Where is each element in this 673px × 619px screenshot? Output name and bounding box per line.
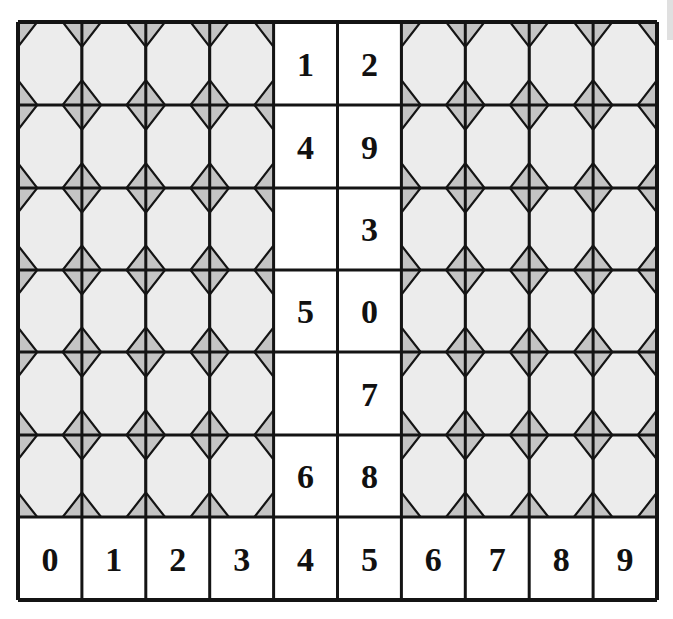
tile-octagon (529, 105, 593, 188)
tile-octagon (146, 22, 210, 105)
octagon-tile (593, 270, 657, 352)
number-cell[interactable] (274, 188, 338, 270)
octagon-tile (210, 270, 274, 352)
octagon-tile (529, 352, 593, 435)
answer-cell[interactable]: 5 (338, 517, 402, 600)
tile-octagon (593, 22, 657, 105)
octagon-tile (146, 22, 210, 105)
tile-octagon (82, 270, 146, 352)
octagon-tile (593, 435, 657, 517)
answer-cell[interactable]: 1 (82, 517, 146, 600)
tile-octagon (529, 270, 593, 352)
answer-cell[interactable]: 4 (274, 517, 338, 600)
tile-octagon (465, 352, 529, 435)
octagon-tile (401, 270, 465, 352)
octagon-tile (18, 105, 82, 188)
answer-cell[interactable]: 7 (465, 517, 529, 600)
cell-digit: 8 (361, 458, 378, 495)
tile-octagon (401, 188, 465, 270)
octagon-tile (146, 435, 210, 517)
octagon-tile (18, 270, 82, 352)
answer-cell[interactable]: 0 (18, 517, 82, 600)
octagon-tile (465, 270, 529, 352)
tile-octagon (82, 435, 146, 517)
answer-cell[interactable]: 2 (146, 517, 210, 600)
tile-octagon (82, 352, 146, 435)
octagon-tile (401, 22, 465, 105)
number-cell[interactable]: 2 (338, 22, 402, 105)
octagon-tile (210, 435, 274, 517)
answer-cell[interactable]: 9 (593, 517, 657, 600)
number-cell[interactable]: 6 (274, 435, 338, 517)
octagon-tile (465, 352, 529, 435)
tile-octagon (593, 270, 657, 352)
tile-octagon (210, 22, 274, 105)
cell-digit: 4 (297, 129, 314, 166)
tile-octagon (18, 352, 82, 435)
octagon-tile (593, 352, 657, 435)
octagon-tile (529, 188, 593, 270)
tile-octagon (465, 435, 529, 517)
tile-octagon (18, 22, 82, 105)
tile-octagon (401, 352, 465, 435)
number-cell[interactable]: 1 (274, 22, 338, 105)
octagon-tile (401, 352, 465, 435)
octagon-tile (593, 105, 657, 188)
puzzle-board: 1249350768 0123456789 (0, 0, 673, 619)
tile-octagon (146, 105, 210, 188)
tile-octagon (465, 270, 529, 352)
cell-digit: 6 (297, 458, 314, 495)
octagon-tile (82, 105, 146, 188)
answer-digit: 0 (41, 541, 58, 578)
tile-octagon (593, 105, 657, 188)
number-cell[interactable]: 7 (338, 352, 402, 435)
answer-cell[interactable]: 3 (210, 517, 274, 600)
octagon-tile (593, 22, 657, 105)
tile-octagon (18, 105, 82, 188)
cell-digit: 1 (297, 46, 314, 83)
tile-octagon (82, 188, 146, 270)
answer-digit: 1 (105, 541, 122, 578)
cell-background (274, 188, 338, 270)
answer-digit: 5 (361, 541, 378, 578)
number-cell[interactable]: 0 (338, 270, 402, 352)
octagon-tile (593, 188, 657, 270)
number-cell[interactable]: 5 (274, 270, 338, 352)
tile-octagon (593, 188, 657, 270)
number-cell[interactable] (274, 352, 338, 435)
octagon-tile (401, 435, 465, 517)
tile-octagon (529, 435, 593, 517)
cell-digit: 2 (361, 46, 378, 83)
number-cell[interactable]: 8 (338, 435, 402, 517)
octagon-tile (529, 22, 593, 105)
octagon-tile (210, 22, 274, 105)
octagon-tile (465, 105, 529, 188)
tile-octagon (401, 435, 465, 517)
tile-octagon (401, 105, 465, 188)
tile-octagon (401, 270, 465, 352)
number-cell[interactable]: 9 (338, 105, 402, 188)
tile-octagon (465, 188, 529, 270)
answer-digit: 4 (297, 541, 314, 578)
tile-octagon (18, 270, 82, 352)
answer-cell[interactable]: 8 (529, 517, 593, 600)
answer-digit: 3 (233, 541, 250, 578)
tile-octagon (593, 352, 657, 435)
answer-digit: 8 (553, 541, 570, 578)
number-cell[interactable]: 4 (274, 105, 338, 188)
tile-octagon (146, 352, 210, 435)
answer-digit: 9 (617, 541, 634, 578)
octagon-tile (401, 188, 465, 270)
octagon-tile (82, 188, 146, 270)
octagon-tile (210, 188, 274, 270)
tile-octagon (210, 270, 274, 352)
number-cell[interactable]: 3 (338, 188, 402, 270)
tile-octagon (18, 188, 82, 270)
octagon-tile (18, 22, 82, 105)
answer-cell[interactable]: 6 (401, 517, 465, 600)
octagon-tile (146, 105, 210, 188)
tile-octagon (529, 22, 593, 105)
octagon-tile (210, 352, 274, 435)
cell-digit: 0 (361, 293, 378, 330)
octagon-tile (146, 188, 210, 270)
